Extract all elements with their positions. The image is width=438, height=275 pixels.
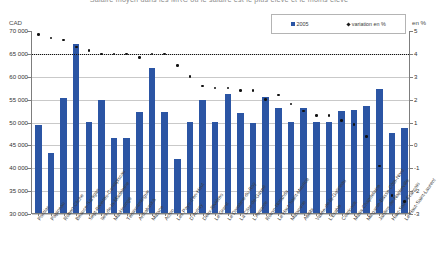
left-axis-tick-mark [27, 100, 31, 101]
data-point [201, 85, 204, 88]
data-point [227, 87, 230, 90]
bar [161, 112, 168, 213]
data-point [239, 89, 242, 92]
data-point [378, 165, 381, 168]
gridline [32, 77, 409, 78]
right-axis-tick-mark [409, 31, 413, 32]
right-axis-tick-label: 4 [414, 50, 430, 57]
data-point [290, 103, 293, 106]
right-axis-tick-label: 0 [414, 141, 430, 148]
left-axis-tick-label: 40 000 [0, 164, 28, 171]
data-point [252, 89, 255, 92]
right-axis-tick-label: 1 [414, 119, 430, 126]
gridline [32, 100, 409, 101]
left-axis-tick-mark [27, 214, 31, 215]
right-axis-tick-mark [409, 100, 413, 101]
left-axis-tick-mark [27, 31, 31, 32]
right-axis-tick-mark [409, 214, 413, 215]
data-point [138, 56, 141, 59]
left-axis-tick-mark [27, 168, 31, 169]
data-point [163, 53, 166, 56]
right-axis-unit-label: en % [412, 19, 426, 26]
data-point [176, 64, 179, 67]
x-axis-category-labels: PontiacPapineauRobert-ClicheBeauce-Sarti… [31, 216, 410, 275]
bar [300, 108, 307, 213]
data-point [328, 114, 331, 117]
legend-item-2005: 2005 [291, 21, 309, 27]
bar [73, 44, 80, 213]
data-point [37, 33, 40, 36]
right-axis-tick-mark [409, 168, 413, 169]
right-axis-tick-mark [409, 54, 413, 55]
left-axis-tick-label: 50 000 [0, 119, 28, 126]
data-point [315, 114, 318, 117]
data-point [403, 200, 406, 203]
left-axis-unit-label: CAD [9, 19, 22, 26]
data-point [214, 87, 217, 90]
chart-legend: 2005 variation en % [271, 14, 406, 34]
bar [199, 100, 206, 213]
bar [60, 98, 67, 213]
right-axis-tick-label: -3 [414, 210, 430, 217]
data-point [125, 53, 128, 56]
data-point [100, 53, 103, 56]
left-axis-tick-mark [27, 54, 31, 55]
right-axis-tick-mark [409, 145, 413, 146]
square-marker-icon [291, 22, 295, 26]
reference-line [32, 54, 409, 55]
legend-label-2005: 2005 [297, 21, 309, 27]
bar [313, 122, 320, 214]
left-axis-tick-mark [27, 77, 31, 78]
plot-area [31, 31, 410, 214]
bar [174, 159, 181, 213]
right-axis-tick-label: 5 [414, 27, 430, 34]
left-axis-tick-label: 30 000 [0, 210, 28, 217]
left-axis-tick-mark [27, 145, 31, 146]
left-axis-tick-mark [27, 191, 31, 192]
diamond-marker-icon [346, 22, 350, 26]
data-point [75, 46, 78, 49]
bar [338, 111, 345, 213]
legend-label-variation: variation en % [352, 21, 386, 27]
left-axis-tick-label: 45 000 [0, 141, 28, 148]
right-axis-tick-label: 2 [414, 96, 430, 103]
right-axis-tick-mark [409, 191, 413, 192]
left-axis-tick-label: 70 000 [0, 27, 28, 34]
right-axis-tick-mark [409, 77, 413, 78]
bar [48, 153, 55, 213]
data-point [277, 94, 280, 97]
left-axis-tick-label: 65 000 [0, 50, 28, 57]
bar [225, 94, 232, 213]
data-point [88, 49, 91, 52]
data-point [50, 37, 53, 40]
data-point [264, 98, 267, 101]
right-axis-tick-mark [409, 123, 413, 124]
left-axis-tick-mark [27, 123, 31, 124]
data-point [62, 39, 65, 42]
data-point [365, 135, 368, 138]
chart-title: Salaire moyen dans les MRC où le salaire… [0, 0, 438, 4]
legend-item-variation: variation en % [347, 21, 386, 27]
bar [35, 125, 42, 213]
bar [262, 97, 269, 213]
data-point [340, 119, 343, 122]
left-axis-tick-label: 60 000 [0, 73, 28, 80]
right-axis-tick-label: -1 [414, 164, 430, 171]
right-axis-tick-label: 3 [414, 73, 430, 80]
left-axis-tick-label: 55 000 [0, 96, 28, 103]
right-axis-tick-label: -2 [414, 187, 430, 194]
left-axis-tick-label: 35 000 [0, 187, 28, 194]
